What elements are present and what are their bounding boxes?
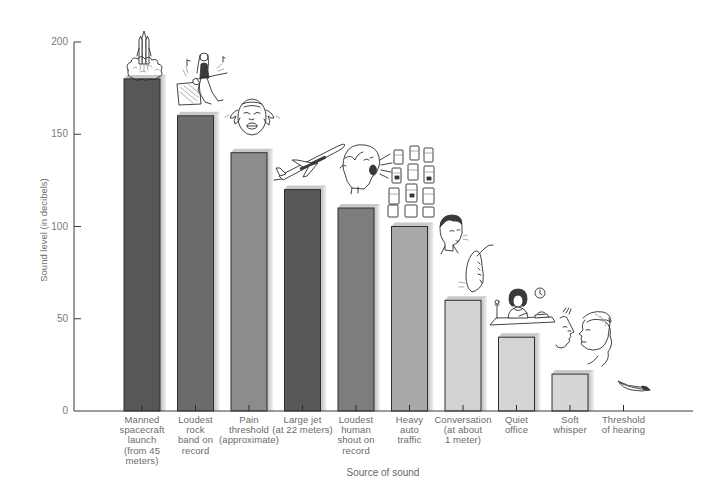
bar-front-face — [392, 227, 428, 412]
y-axis-title: Sound level (in decibels) — [38, 150, 50, 310]
bar — [499, 333, 541, 411]
woman-at-desk-illustration — [490, 288, 555, 325]
bar-top-face — [392, 223, 434, 227]
talking-man-ear-illustration — [440, 215, 493, 292]
sound-level-bar-chart: 050100150200 Sound level (in decibels) M… — [0, 0, 725, 492]
bar-front-face — [231, 153, 267, 411]
bar-front-face — [285, 190, 321, 411]
feather-illustration — [618, 381, 650, 391]
bars-group — [124, 75, 624, 411]
bar-front-face — [445, 300, 481, 411]
bar-side-face — [535, 333, 541, 411]
bar-side-face — [374, 204, 380, 411]
whispering-faces-illustration — [556, 308, 612, 366]
pain-face-illustration — [225, 99, 280, 135]
bar — [338, 204, 380, 411]
bar — [285, 186, 327, 411]
bar — [124, 75, 166, 411]
bar — [552, 370, 594, 411]
bar — [178, 112, 220, 411]
bar-front-face — [499, 337, 535, 411]
bar — [445, 296, 487, 411]
bar-side-face — [160, 75, 166, 411]
bar-side-face — [214, 112, 220, 411]
bar-side-face — [481, 296, 487, 411]
bar-top-face — [445, 296, 487, 300]
bar — [392, 223, 434, 412]
bar-side-face — [588, 370, 594, 411]
bar-front-face — [338, 208, 374, 411]
jet-plane-illustration — [274, 144, 345, 180]
bar-front-face — [124, 79, 160, 411]
bar-top-face — [285, 186, 327, 190]
bar-side-face — [321, 186, 327, 411]
axes-group — [74, 42, 693, 411]
y-tick-label: 150 — [38, 128, 68, 140]
y-tick-label: 200 — [38, 36, 68, 48]
traffic-cars-illustration — [388, 146, 434, 217]
bar-top-face — [178, 112, 220, 116]
y-tick-label: 50 — [38, 313, 68, 325]
bar-top-face — [338, 204, 380, 208]
bar — [231, 149, 273, 411]
bar-side-face — [428, 223, 434, 412]
x-category-label: Threshold of hearing — [576, 415, 672, 435]
bar-front-face — [178, 116, 214, 411]
x-axis-title: Source of sound — [300, 467, 466, 479]
bar-side-face — [267, 149, 273, 411]
shouting-head-illustration — [340, 145, 392, 194]
bar-top-face — [499, 333, 541, 337]
bar-top-face — [231, 149, 273, 153]
rock-guitarist-illustration — [177, 53, 227, 105]
y-tick-label: 0 — [38, 405, 68, 417]
rocket-launch-illustration — [127, 31, 162, 81]
bar-top-face — [552, 370, 594, 374]
